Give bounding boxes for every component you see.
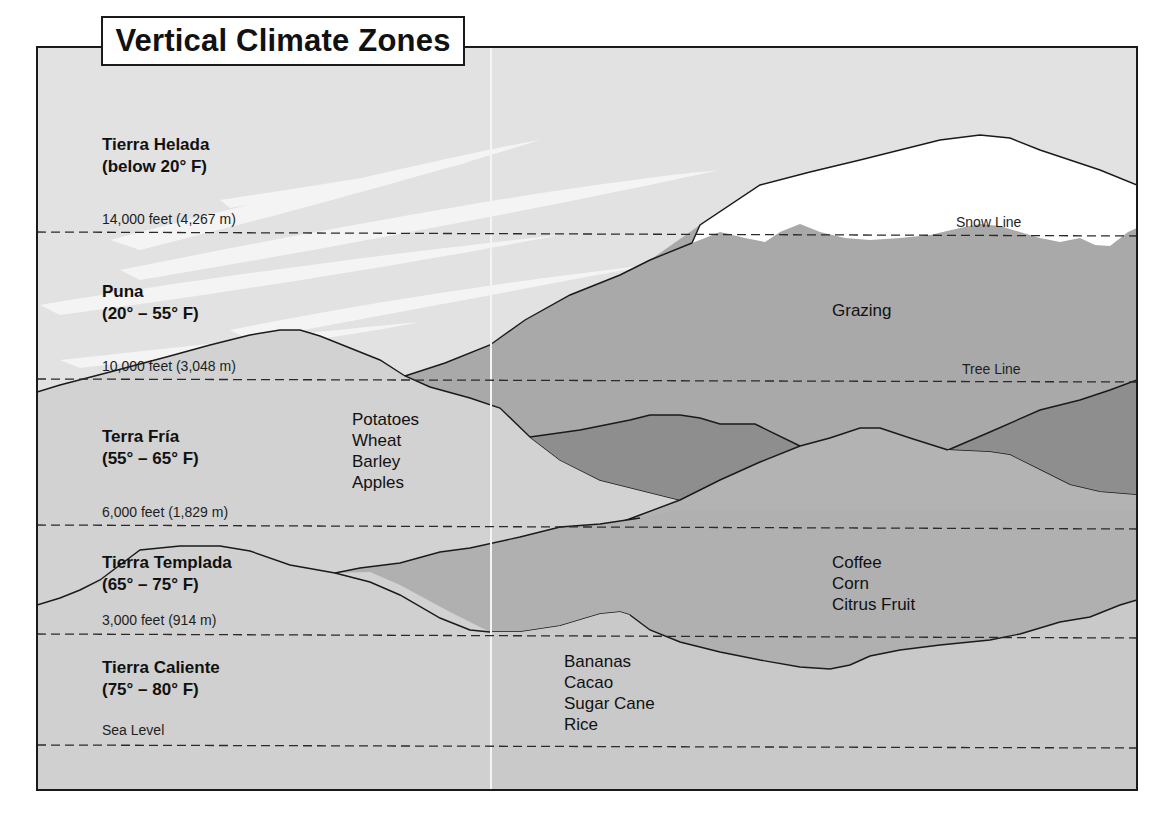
- zone-range: (below 20° F): [102, 156, 209, 178]
- elevation-6000ft: 6,000 feet (1,829 m): [102, 504, 228, 520]
- crop-item: Potatoes: [352, 409, 419, 430]
- zone-range: (20° – 55° F): [102, 303, 199, 325]
- zone-tierra-caliente: Tierra Caliente (75° – 80° F): [102, 657, 220, 701]
- title-box: Vertical Climate Zones: [101, 16, 465, 66]
- crop-item: Rice: [564, 714, 655, 735]
- crop-item: Barley: [352, 451, 419, 472]
- zone-terra-fria: Terra Fría (55° – 65° F): [102, 426, 199, 470]
- crops-fria: Potatoes Wheat Barley Apples: [352, 409, 419, 493]
- zone-name: Tierra Templada: [102, 552, 232, 574]
- crop-item: Sugar Cane: [564, 693, 655, 714]
- diagram-title: Vertical Climate Zones: [115, 23, 450, 59]
- zone-range: (75° – 80° F): [102, 679, 220, 701]
- zone-name: Puna: [102, 281, 199, 303]
- crop-item: Bananas: [564, 651, 655, 672]
- crops-caliente: Bananas Cacao Sugar Cane Rice: [564, 651, 655, 735]
- zone-name: Tierra Caliente: [102, 657, 220, 679]
- crop-item: Corn: [832, 573, 915, 594]
- zone-tierra-templada: Tierra Templada (65° – 75° F): [102, 552, 232, 596]
- zone-range: (65° – 75° F): [102, 574, 232, 596]
- crop-item: Grazing: [832, 300, 892, 321]
- elevation-14000ft: 14,000 feet (4,267 m): [102, 211, 236, 227]
- tree-line-label: Tree Line: [962, 361, 1021, 377]
- zone-tierra-helada: Tierra Helada (below 20° F): [102, 134, 209, 178]
- elevation-10000ft: 10,000 feet (3,048 m): [102, 358, 236, 374]
- crop-item: Cacao: [564, 672, 655, 693]
- elevation-3000ft: 3,000 feet (914 m): [102, 612, 216, 628]
- zone-puna: Puna (20° – 55° F): [102, 281, 199, 325]
- crops-puna: Grazing: [832, 300, 892, 321]
- zone-name: Tierra Helada: [102, 134, 209, 156]
- crop-item: Wheat: [352, 430, 419, 451]
- zone-name: Terra Fría: [102, 426, 199, 448]
- crop-item: Coffee: [832, 552, 915, 573]
- crop-item: Citrus Fruit: [832, 594, 915, 615]
- snow-line-label: Snow Line: [956, 214, 1021, 230]
- crop-item: Apples: [352, 472, 419, 493]
- elevation-sea-level: Sea Level: [102, 722, 164, 738]
- vertical-climate-zones-diagram: Vertical Climate Zones Tierra Helada (be…: [0, 0, 1174, 823]
- crops-templada: Coffee Corn Citrus Fruit: [832, 552, 915, 615]
- zone-range: (55° – 65° F): [102, 448, 199, 470]
